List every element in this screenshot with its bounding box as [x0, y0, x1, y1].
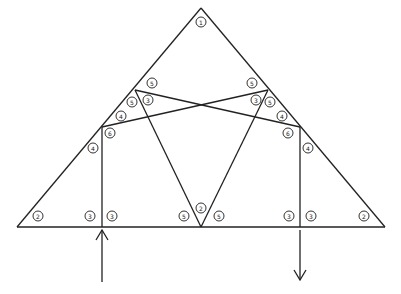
svg-text:5: 5: [130, 99, 134, 106]
member-number-label: 4: [116, 111, 126, 121]
svg-text:3: 3: [88, 213, 92, 220]
svg-text:2: 2: [199, 205, 203, 212]
svg-text:2: 2: [36, 213, 40, 220]
truss-diagram: 1222333333444455555566: [0, 0, 401, 294]
member-number-label: 3: [284, 211, 294, 221]
member-number-label: 2: [33, 211, 43, 221]
svg-text:3: 3: [110, 213, 114, 220]
member-number-label: 5: [179, 211, 189, 221]
member-number-label: 3: [85, 211, 95, 221]
svg-text:6: 6: [108, 130, 112, 137]
member-number-label: 5: [127, 97, 137, 107]
member-number-label: 1: [196, 17, 206, 27]
load-down-arrow: [294, 230, 306, 280]
svg-text:4: 4: [91, 145, 95, 152]
member-number-label: 3: [306, 211, 316, 221]
member-web-left: [135, 90, 201, 227]
member-number-label: 6: [105, 128, 115, 138]
svg-text:3: 3: [146, 97, 150, 104]
member-number-label: 2: [359, 211, 369, 221]
member-number-label: 2: [196, 203, 206, 213]
svg-text:3: 3: [287, 213, 291, 220]
member-top-left: [17, 8, 201, 227]
member-number-label: 3: [251, 95, 261, 105]
member-number-label: 5: [147, 78, 157, 88]
reaction-up-arrow: [96, 230, 108, 282]
member-web-right: [201, 90, 268, 227]
member-top-right: [201, 8, 385, 227]
svg-text:5: 5: [182, 213, 186, 220]
svg-text:4: 4: [306, 145, 310, 152]
svg-text:5: 5: [150, 80, 154, 87]
member-number-label: 4: [303, 143, 313, 153]
svg-text:6: 6: [286, 130, 290, 137]
svg-text:5: 5: [268, 99, 272, 106]
member-number-label: 5: [214, 211, 224, 221]
svg-text:3: 3: [309, 213, 313, 220]
member-number-label: 6: [283, 128, 293, 138]
member-number-label: 4: [277, 111, 287, 121]
member-number-label: 5: [265, 97, 275, 107]
svg-text:3: 3: [254, 97, 258, 104]
svg-text:2: 2: [362, 213, 366, 220]
svg-text:5: 5: [217, 213, 221, 220]
member-number-label: 3: [143, 95, 153, 105]
svg-text:4: 4: [280, 113, 284, 120]
member-number-label: 5: [247, 78, 257, 88]
svg-text:1: 1: [199, 19, 203, 26]
svg-text:4: 4: [119, 113, 123, 120]
svg-text:5: 5: [250, 80, 254, 87]
member-number-label: 3: [107, 211, 117, 221]
member-number-label: 4: [88, 143, 98, 153]
